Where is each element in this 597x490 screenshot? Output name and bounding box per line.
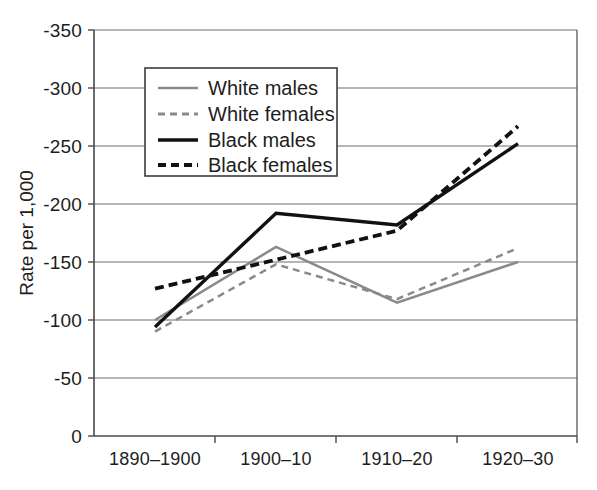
y-tick-label-100: -100 (43, 310, 82, 331)
chart-canvas: -350 -300 -250 -200 -150 -100 -50 0 Rate… (0, 0, 597, 490)
x-tick-label-2: 1910–20 (361, 449, 432, 469)
legend-label-white-females: White females (208, 103, 335, 125)
line-chart: -350 -300 -250 -200 -150 -100 -50 0 Rate… (0, 0, 597, 490)
y-tick-label-200: -200 (43, 194, 82, 215)
legend-label-white-males: White males (208, 77, 318, 99)
x-tick-label-0: 1890–1900 (109, 449, 201, 469)
y-tick-label-350: -350 (43, 20, 82, 41)
x-tick-label-1: 1900–10 (240, 449, 311, 469)
x-tick-label-3: 1920–30 (482, 449, 553, 469)
legend-label-black-females: Black females (208, 154, 333, 176)
y-axis-title: Rate per 1,000 (16, 170, 37, 296)
y-tick-label-50: -50 (54, 368, 82, 389)
y-tick-label-150: -150 (43, 252, 82, 273)
legend-label-black-males: Black males (208, 129, 316, 151)
legend: White males White females Black males Bl… (145, 68, 337, 176)
y-tick-label-250: -250 (43, 136, 82, 157)
y-tick-label-0: 0 (71, 426, 82, 447)
y-tick-label-300: -300 (43, 78, 82, 99)
